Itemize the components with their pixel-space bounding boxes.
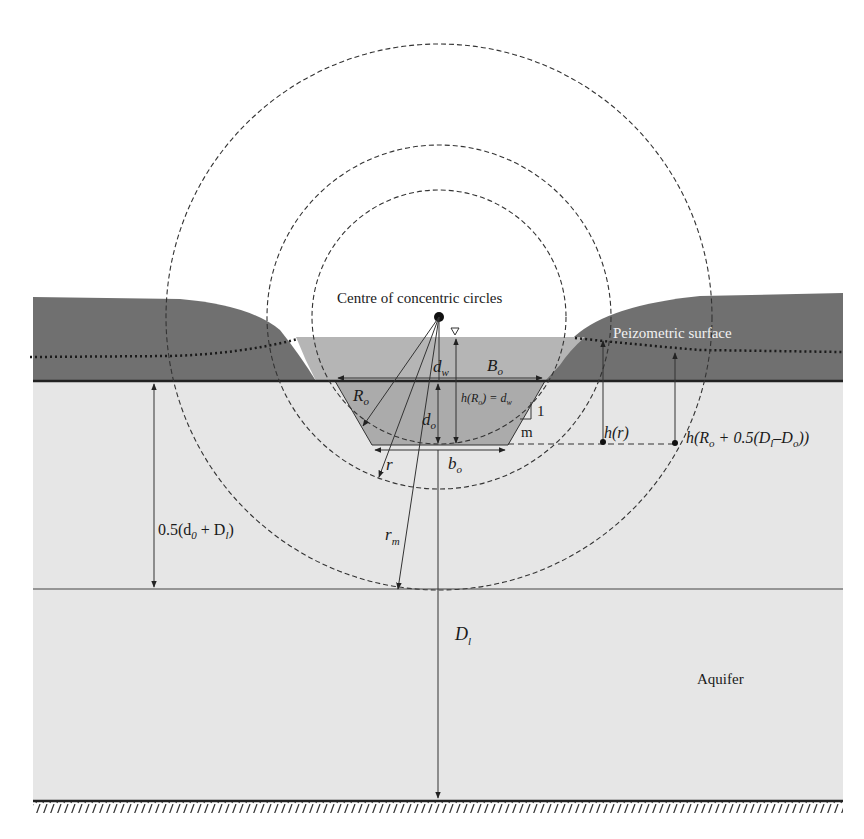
canal-section	[335, 381, 545, 445]
hr-label: h(r)	[604, 424, 629, 442]
confining-layer-left	[33, 297, 316, 381]
slope-m-label: m	[521, 424, 533, 440]
aquifer-label: Aquifer	[697, 671, 744, 687]
centre-label: Centre of concentric circles	[337, 290, 502, 306]
slope-1-label: 1	[537, 403, 545, 419]
hRo-equals-dw-label: h(Ro) = dw	[461, 391, 512, 407]
r-label: r	[386, 455, 393, 474]
aquifer-diagram: Centre of concentric circles Peizometric…	[0, 0, 864, 839]
water-level-icon	[451, 328, 459, 335]
hRo-point	[672, 440, 678, 446]
base-hatching	[33, 802, 843, 813]
peizometric-label: Peizometric surface	[613, 325, 732, 341]
